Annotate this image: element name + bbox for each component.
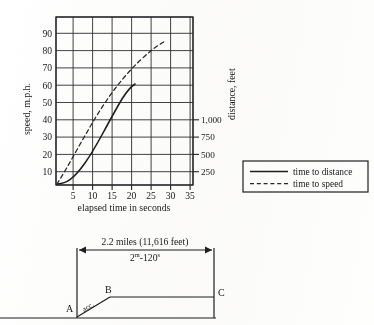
y-axis-right-title: distance, feet <box>226 68 237 120</box>
chart-frame <box>56 17 193 185</box>
x-tick-label: 20 <box>127 190 137 201</box>
diagram-point-c-label: C <box>218 287 225 298</box>
diagram-acceleration-label: acc. <box>80 300 95 314</box>
x-tick-label: 30 <box>166 190 176 201</box>
time-separator: -120 <box>140 252 158 263</box>
legend-label-time-to-distance: time to distance <box>293 167 352 177</box>
chart-gridlines-horizontal <box>56 17 193 185</box>
y-tick-label: 70 <box>42 62 52 73</box>
x-tick-label: 15 <box>107 190 117 201</box>
figure-container: 90 80 70 60 50 40 30 20 10 speed, m.p.h.… <box>0 0 374 325</box>
svg-text:2m-120s: 2m-120s <box>130 251 160 263</box>
x-tick-label: 35 <box>185 190 195 201</box>
arrow-left-icon <box>79 247 86 254</box>
y2-tick-label: 250 <box>201 167 215 177</box>
y-axis-left-title: speed, m.p.h. <box>21 83 32 135</box>
diagram-point-a-label: A <box>66 303 74 314</box>
y-tick-label: 90 <box>42 28 52 39</box>
x-axis-title: elapsed time in seconds <box>78 202 171 213</box>
y-tick-label: 60 <box>42 80 52 91</box>
y-tick-label: 40 <box>42 114 52 125</box>
y-tick-label: 50 <box>42 97 52 108</box>
y2-tick-label: 1,000 <box>201 115 222 125</box>
y-tick-label: 30 <box>42 131 52 142</box>
x-tick-label: 25 <box>146 190 156 201</box>
chart-gridlines-vertical <box>56 17 193 185</box>
y-tick-label: 10 <box>42 166 52 177</box>
arrow-right-icon <box>205 247 212 254</box>
legend-box: time to distance time to speed <box>243 161 368 192</box>
figure-svg: 90 80 70 60 50 40 30 20 10 speed, m.p.h.… <box>0 0 374 325</box>
chart-y-axis-right-ticks <box>193 120 199 172</box>
acceleration-diagram: 2.2 miles (11,616 feet) 2m-120s A B C ac… <box>0 236 225 318</box>
x-tick-label: 5 <box>71 190 76 201</box>
chart-plot-area <box>56 17 193 185</box>
y2-tick-label: 750 <box>201 132 215 142</box>
legend-label-time-to-speed: time to speed <box>293 179 343 189</box>
time-unit-seconds: s <box>157 251 160 258</box>
diagram-point-b-label: B <box>105 284 112 295</box>
y-tick-label: 20 <box>42 149 52 160</box>
y-tick-label: 80 <box>42 45 52 56</box>
chart-x-axis-labels: 5 10 15 20 25 30 35 <box>71 190 195 201</box>
chart-y-axis-right-labels: 250 500 750 1,000 <box>201 115 222 177</box>
diagram-distance-label: 2.2 miles (11,616 feet) <box>102 236 189 248</box>
diagram-time-label: 2m-120s <box>130 251 160 263</box>
y2-tick-label: 500 <box>201 150 215 160</box>
curve-time-to-distance <box>58 84 136 184</box>
chart-y-axis-left-labels: 90 80 70 60 50 40 30 20 10 <box>42 28 52 177</box>
x-tick-label: 10 <box>88 190 98 201</box>
